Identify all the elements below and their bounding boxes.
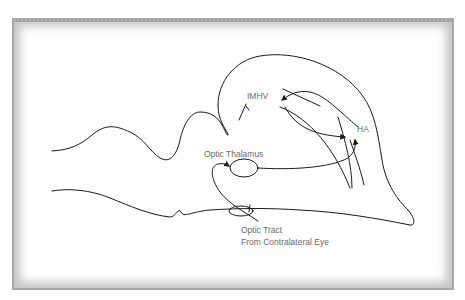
pathway-ha-to-imhv bbox=[282, 91, 358, 127]
label-optic-tract: Optic Tract bbox=[241, 225, 282, 236]
brain-outline-upper bbox=[52, 55, 414, 225]
ha-tract-line-2 bbox=[350, 140, 364, 185]
optic-chiasm-tick bbox=[249, 205, 250, 212]
pathway-thalamus-to-ha bbox=[258, 140, 355, 169]
imhv-line-2 bbox=[280, 107, 350, 188]
imhv-pointer bbox=[239, 104, 249, 120]
label-optic-thalamus: Optic Thalamus bbox=[204, 149, 263, 160]
label-contralateral-eye: From Contralateral Eye bbox=[241, 237, 329, 248]
optic-thalamus-node bbox=[230, 159, 258, 177]
brain-outline-lower bbox=[52, 190, 410, 225]
pathway-imhv-to-ha bbox=[285, 107, 345, 137]
label-imhv: IMHV bbox=[247, 91, 268, 102]
label-ha: HA bbox=[357, 124, 369, 135]
pathway-optic-tract-to-thalamus bbox=[212, 164, 258, 221]
